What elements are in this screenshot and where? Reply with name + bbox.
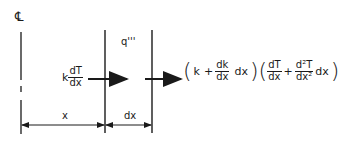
dT-num: dT	[267, 60, 281, 72]
plus-2: +	[284, 65, 293, 78]
centerline-label: ℄	[15, 10, 23, 23]
dimension-dx-label: dx	[124, 111, 136, 121]
k-term: k	[194, 65, 200, 78]
left-flux-fraction: dT dx	[68, 66, 82, 88]
plus-1: +	[204, 65, 213, 78]
paren-close-1: )	[250, 60, 259, 82]
dx-term-2: dx	[315, 65, 329, 78]
dT-dx-fraction: dT dx	[267, 60, 281, 82]
dimension-x-label: x	[62, 111, 68, 121]
dk-dx-fraction: dk dx	[215, 60, 229, 82]
dk-num: dk	[215, 60, 229, 72]
paren-close-2: )	[331, 60, 340, 82]
d2T-den: dx²	[295, 72, 313, 83]
d2T-num: d²T	[295, 60, 313, 72]
left-flux-den: dx	[68, 78, 82, 89]
dk-den: dx	[215, 72, 229, 83]
right-flux-expression: ( k + dk dx dx ) ( dT dx + d²T dx² dx )	[183, 60, 339, 82]
left-flux-num: dT	[68, 66, 82, 78]
dx-term-1: dx	[234, 65, 248, 78]
left-flux-label: k dT dx	[62, 66, 83, 88]
d2T-dx2-fraction: d²T dx²	[295, 60, 313, 82]
paren-open-1: (	[183, 60, 192, 82]
generation-label: q'''	[121, 37, 136, 47]
paren-open-2: (	[259, 60, 268, 82]
dT-den: dx	[267, 72, 281, 83]
